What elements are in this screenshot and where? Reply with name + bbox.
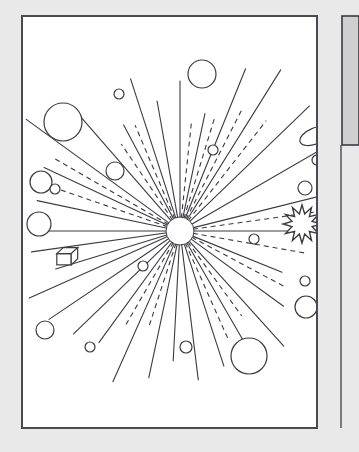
dot-upper-right-inner — [208, 145, 218, 155]
circle-top-center — [188, 60, 216, 88]
circle-bottom-right-large — [231, 338, 267, 374]
central-burst-core — [166, 217, 194, 245]
circle-left-mid — [27, 212, 51, 236]
radial-burst-figure — [0, 0, 359, 452]
circle-upper-left-large — [44, 103, 82, 141]
circle-pair-small — [50, 184, 60, 194]
dot-right-inner — [249, 234, 259, 244]
circle-left-upper-mid — [106, 162, 124, 180]
dot-lower-left — [85, 342, 95, 352]
figure-stage — [0, 0, 359, 452]
circle-right-lower — [295, 296, 317, 318]
gray-side-panel — [342, 16, 359, 145]
circle-lower-left — [36, 321, 54, 339]
dot-right-lower — [300, 276, 310, 286]
dot-mid-lower-left — [138, 261, 148, 271]
circle-right-mid — [298, 181, 312, 195]
circle-left-pair-big — [30, 171, 52, 193]
dot-upper-left — [114, 89, 124, 99]
dot-bottom-center — [180, 341, 192, 353]
cube-left — [57, 248, 78, 265]
cube-left-front-face — [57, 254, 71, 265]
